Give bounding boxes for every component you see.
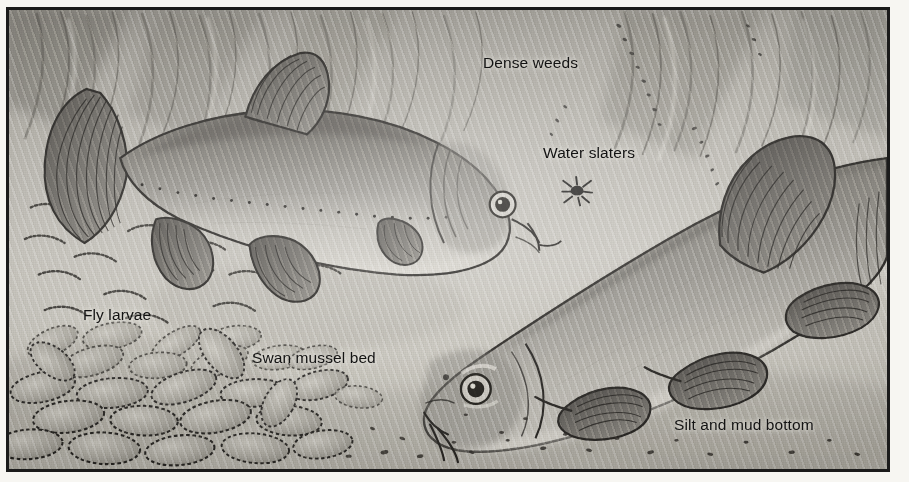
label-water-slaters: Water slaters bbox=[543, 144, 635, 162]
underwater-scene: Dense weeds Water slaters Fly larvae Swa… bbox=[9, 10, 887, 469]
label-swan-mussel-bed: Swan mussel bed bbox=[252, 349, 376, 367]
label-fly-larvae: Fly larvae bbox=[83, 306, 151, 324]
label-dense-weeds: Dense weeds bbox=[483, 54, 578, 72]
label-silt-and-mud-bottom: Silt and mud bottom bbox=[674, 416, 814, 434]
scene-vignette bbox=[9, 10, 887, 469]
illustration-plate: Dense weeds Water slaters Fly larvae Swa… bbox=[0, 0, 909, 482]
illustration-frame: Dense weeds Water slaters Fly larvae Swa… bbox=[6, 7, 890, 472]
